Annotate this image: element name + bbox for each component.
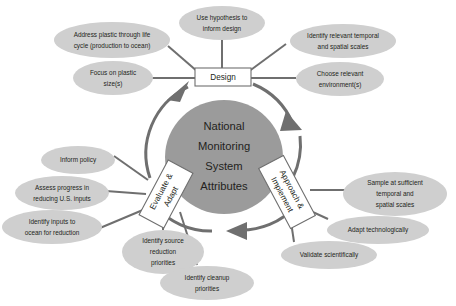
attribute-identify-cleanup-priorities[interactable]: Identify cleanup priorities [160,266,254,300]
arrowhead-to-approach [280,111,302,131]
center-node: National Monitoring System Attributes [165,100,283,214]
ellipse-label-line-1: Validate scientifically [300,251,359,259]
ellipse-label-line-2: reduction [150,248,177,255]
ellipse-label-line-1: Inform policy [60,156,97,164]
attribute-assess-progress-in-reducing-us-inputs[interactable]: Assess progress in reducing U.S. inputs [15,176,109,210]
connector-evaluate-assess-progress [106,191,146,194]
ellipse-label-line-2: environment(s) [319,81,362,89]
ellipse-label-line-1: Identify inputs to [29,218,76,226]
ellipse-label-line-1: Use hypothesis to [197,14,248,22]
ellipse-label-line-1: Adapt technologically [348,226,409,234]
ellipse-label-line-1: Focus on plastic [90,69,137,77]
attribute-validate-scientifically[interactable]: Validate scientifically [281,241,377,269]
ellipse-shape [160,266,254,300]
ellipse-shape [179,6,265,40]
stage-label: Design [210,73,236,82]
ellipse-label-line-3: priorities [151,259,175,267]
ellipse-shape [2,210,102,244]
center-label-line-1: National [203,120,244,132]
ellipse-label-line-1: Address plastic through life [74,31,151,39]
arrowhead-to-design [167,81,189,102]
ellipse-label-line-3: spatial scales [376,201,414,209]
ellipse-label-line-1: Identify cleanup [185,274,230,282]
ellipse-label-line-2: ocean for reduction [25,229,80,236]
ellipse-label-line-2: reducing U.S. inputs [33,195,91,203]
ellipse-label-line-2: size(s) [104,80,123,88]
ellipse-label-line-2: inform design [203,25,242,33]
attribute-choose-relevant-environments[interactable]: Choose relevant environment(s) [296,62,384,96]
ellipse-label-line-2: cycle (production to ocean) [74,42,151,50]
attribute-sample-at-sufficient-temporal-and-spatial-scales[interactable]: Sample at sufficient temporal and spatia… [343,172,447,216]
stage-design[interactable]: Design [195,68,251,86]
ellipse-label-line-2: and spatial scales [318,43,369,51]
ellipse-shape [15,176,109,210]
attribute-use-hypothesis-to-inform-design[interactable]: Use hypothesis to inform design [179,6,265,40]
center-label-line-2: Monitoring [198,140,250,152]
ellipse-label-line-2: priorities [195,285,219,293]
arrowhead-to-evaluate [226,222,247,240]
ellipse-shape [296,62,384,96]
center-label-line-4: Attributes [200,180,248,192]
arc-approach-side [293,136,300,177]
center-label-line-3: System [205,160,242,172]
ellipse-label-line-1: Identify relevant temporal [307,32,379,40]
ellipse-label-line-1: Assess progress in [35,184,89,192]
center-circle-shape [165,100,283,214]
diagram-canvas: National Monitoring System Attributes Ad… [0,0,456,306]
ellipse-label-line-2: temporal and [376,190,414,198]
ellipse-label-line-1: Choose relevant [317,70,364,77]
ellipse-label-line-1: Sample at sufficient [367,179,423,187]
ellipse-shape [73,61,153,95]
ellipse-shape [54,22,170,58]
connector-design-identify-scales [248,44,286,72]
ellipse-label-line-1: Identify source [142,237,184,245]
attribute-inform-policy[interactable]: Inform policy [41,146,115,174]
attribute-adapt-technologically[interactable]: Adapt technologically [327,216,429,244]
ellipse-shape [290,24,396,58]
attribute-identify-inputs-to-ocean-for-reduction[interactable]: Identify inputs to ocean for reduction [2,210,102,244]
connector-evaluate-inform-policy [114,156,148,180]
attribute-focus-on-plastic-sizes[interactable]: Focus on plastic size(s) [73,61,153,95]
attribute-address-plastic-through-life-cycle[interactable]: Address plastic through life cycle (prod… [54,22,170,58]
national-monitoring-system-diagram: National Monitoring System Attributes Ad… [0,0,456,306]
attribute-identify-relevant-temporal-and-spatial-scales[interactable]: Identify relevant temporal and spatial s… [290,24,396,58]
connector-design-address-plastic [168,46,198,72]
